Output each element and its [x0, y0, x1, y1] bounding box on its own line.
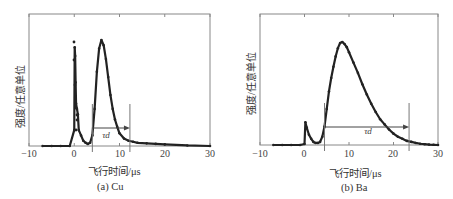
panel-caption: (a) Cu — [97, 181, 124, 192]
tau-d-label: τd — [102, 130, 110, 140]
x-tick: 10 — [344, 148, 354, 159]
x-tick: 0 — [72, 148, 77, 159]
x-axis-label: 飞行时间/μs — [329, 165, 382, 180]
x-tick: −10 — [21, 148, 37, 159]
y-axis-label: 强度/任意单位 — [12, 65, 27, 128]
y-axis-label: 强度/任意单位 — [243, 52, 258, 115]
x-tick: 10 — [115, 148, 125, 159]
chart-panel-cu: 强度/任意单位 −10 0 10 20 30 飞行时间/μs (a) Cu τd — [0, 0, 226, 199]
x-tick: 20 — [160, 148, 170, 159]
x-tick: 30 — [433, 148, 443, 159]
x-tick: 30 — [205, 148, 215, 159]
panel-caption: (b) Ba — [341, 182, 368, 193]
x-tick: 20 — [388, 148, 398, 159]
tau-d-label: τd — [364, 126, 372, 136]
chart-panel-ba: 强度/任意单位 −10 0 10 20 30 飞行时间/μs (b) Ba τd — [226, 0, 453, 199]
x-tick: 0 — [302, 148, 307, 159]
x-tick: −10 — [252, 148, 268, 159]
x-axis-label: 飞行时间/μs — [88, 163, 141, 178]
